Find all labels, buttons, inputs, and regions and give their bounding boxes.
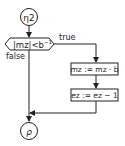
process-box-1: mz := mz · b [71, 63, 119, 75]
arrow-merge [30, 101, 96, 113]
false-label: false [6, 52, 25, 61]
end-node: ρ [21, 123, 38, 140]
svg-text:|mz|<b−1: |mz|<b−1 [13, 39, 52, 50]
process-1-label: mz := mz · b [71, 65, 119, 74]
decision-node: |mz|<b−1 [5, 38, 54, 50]
decision-label: |mz|<b [13, 40, 44, 50]
start-node: η2 [21, 9, 38, 26]
start-node-label: η2 [23, 13, 34, 23]
true-label: true [59, 33, 75, 42]
end-node-label: ρ [26, 127, 32, 137]
process-2-label: ez := ez − 1 [71, 91, 118, 100]
flowchart: η2 |mz|<b−1 true false mz := mz · b ez :… [0, 0, 125, 146]
arrow-true-branch [54, 44, 96, 62]
process-box-2: ez := ez − 1 [71, 89, 118, 101]
decision-superscript: −1 [44, 39, 52, 45]
